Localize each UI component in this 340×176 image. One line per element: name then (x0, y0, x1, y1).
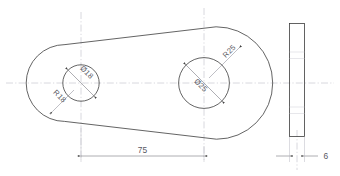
small-bore-diameter-dimension: Ø18 (68, 64, 95, 96)
side-view-body (290, 24, 305, 137)
center-distance-label: 75 (138, 145, 148, 155)
center-distance-dimension: 75 (81, 128, 204, 162)
small-outer-radius-dimension: R18 (51, 88, 74, 112)
large-outer-radius-dimension: R25 (209, 43, 239, 78)
small-outer-radius-label: R18 (51, 88, 68, 105)
side-view (290, 24, 305, 137)
large-bore-diameter-label: Ø25 (192, 77, 209, 94)
thickness-label: 6 (324, 151, 329, 161)
drawing-sheet: Ø18 R18 Ø25 R25 75 (0, 0, 340, 176)
thickness-dimension: 6 (276, 137, 329, 162)
large-outer-radius-label: R25 (221, 43, 238, 60)
